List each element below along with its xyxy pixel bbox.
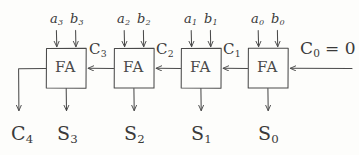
input-a1-label: a1 — [184, 12, 197, 25]
carry-c2-label: C2 — [156, 42, 173, 57]
fa-3-label: FA — [55, 60, 76, 75]
carry-out-line-c4 — [19, 69, 46, 111]
carry-c1-label: C1 — [223, 42, 240, 57]
fa-0-label: FA — [257, 60, 278, 75]
fa-2-label: FA — [123, 60, 144, 75]
fa-1-label: FA — [190, 60, 211, 75]
input-b1-label: b1 — [204, 12, 217, 25]
output-s3-label: S3 — [57, 124, 78, 143]
carry-c0-label: C0 = 0 — [300, 40, 356, 57]
output-s1-label: S1 — [191, 124, 212, 143]
input-b0-label: b0 — [271, 12, 284, 25]
input-a0-label: a0 — [251, 12, 264, 25]
input-a3-label: a3 — [50, 12, 63, 25]
output-s2-label: S2 — [124, 124, 145, 143]
input-b2-label: b2 — [137, 12, 150, 25]
output-c4-label: C4 — [11, 124, 33, 143]
input-a2-label: a2 — [117, 12, 130, 25]
input-b3-label: b3 — [70, 12, 83, 25]
output-s0-label: S0 — [258, 124, 279, 143]
adder-diagram-canvas: FA FA FA FA a3 b3 a2 b2 a1 b1 a0 b0 C3 C… — [0, 0, 359, 155]
carry-c3-label: C3 — [89, 42, 106, 57]
